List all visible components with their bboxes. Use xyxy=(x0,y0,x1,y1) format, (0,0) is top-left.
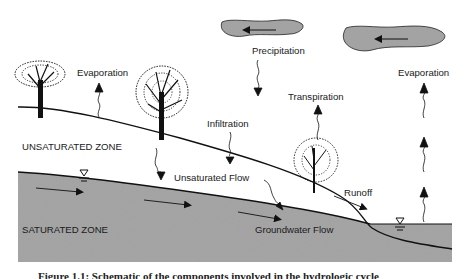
label-evaporation-right: Evaporation xyxy=(398,67,449,78)
label-transpiration: Transpiration xyxy=(288,91,344,102)
tree-right-icon xyxy=(294,138,338,193)
infiltration-arrow-left xyxy=(155,148,165,180)
evaporation-arrow-right-bottom xyxy=(420,187,428,222)
saturated-zone-region xyxy=(18,172,452,262)
label-unsaturated-flow: Unsaturated Flow xyxy=(174,172,249,183)
evaporation-arrow-right-top xyxy=(420,83,428,118)
figure-caption: Figure 1.1: Schematic of the components … xyxy=(38,268,458,279)
transpiration-arrow xyxy=(314,105,322,140)
precipitation-arrow xyxy=(254,60,262,96)
label-evaporation-left: Evaporation xyxy=(77,67,128,78)
label-runoff: Runoff xyxy=(344,187,372,198)
evaporation-arrow-right-middle xyxy=(420,137,428,172)
label-infiltration: Infiltration xyxy=(207,118,249,129)
label-saturated-zone: SATURATED ZONE xyxy=(22,224,108,235)
evaporation-arrow-left xyxy=(95,83,103,117)
label-unsaturated-zone: UNSATURATED ZONE xyxy=(22,141,122,152)
label-precipitation: Precipitation xyxy=(252,45,305,56)
infiltration-arrow xyxy=(226,132,234,164)
cloud-left xyxy=(221,20,303,37)
cloud-right xyxy=(343,26,445,51)
label-groundwater-flow: Groundwater Flow xyxy=(255,224,333,235)
hydrologic-cycle-diagram: Evaporation Precipitation Transpiration … xyxy=(0,0,468,279)
